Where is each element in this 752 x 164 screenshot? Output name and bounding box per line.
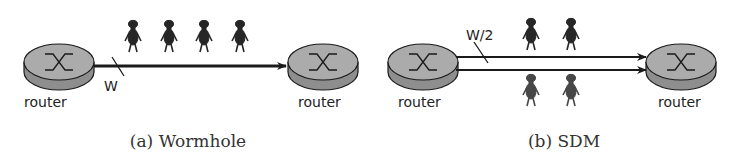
link-width-label: W/2 <box>466 27 493 43</box>
caption-sdm: (b) SDM <box>528 131 600 151</box>
flit-group-top <box>523 18 579 50</box>
router-label-right-b: router <box>658 94 701 110</box>
link-width-label: W <box>104 78 118 94</box>
router-icon <box>388 44 458 90</box>
panel-sdm: router W/2 router (b) SDM <box>388 18 716 151</box>
router-icon <box>646 44 716 90</box>
person-figure-icon <box>523 74 539 106</box>
sdm-vs-wormhole-figure: router W router (a) Wormhole router W/2 <box>0 0 752 164</box>
person-figure-icon <box>563 18 579 50</box>
panel-wormhole: router W router (a) Wormhole <box>24 20 358 151</box>
person-figure-icon <box>161 20 177 52</box>
router-icon <box>288 44 358 90</box>
router-icon <box>24 44 94 90</box>
person-figure-icon <box>232 20 248 52</box>
router-label-right-a: router <box>298 94 341 110</box>
link-width-tick <box>474 42 488 63</box>
router-label-left-a: router <box>24 94 67 110</box>
person-figure-icon <box>196 20 212 52</box>
person-figure-icon <box>563 74 579 106</box>
person-figure-icon <box>523 18 539 50</box>
person-figure-icon <box>125 20 141 52</box>
flit-group <box>125 20 248 52</box>
flit-group-bottom <box>523 74 579 106</box>
caption-wormhole: (a) Wormhole <box>130 131 246 151</box>
router-label-left-b: router <box>398 94 441 110</box>
